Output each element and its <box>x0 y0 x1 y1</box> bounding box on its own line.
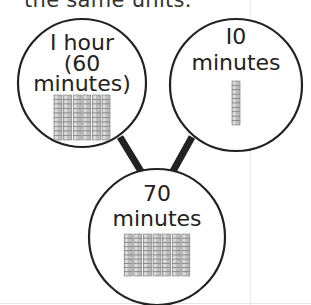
cube-highlight <box>154 268 157 271</box>
node-seventy-minutes: 70minutes <box>89 169 225 305</box>
cube-highlight <box>93 132 96 135</box>
cube-highlight <box>103 132 106 135</box>
cube-highlight <box>233 121 236 124</box>
cube-highlight <box>74 136 77 139</box>
cube-highlight <box>233 108 236 111</box>
cube-highlight <box>74 96 77 99</box>
ten-rod <box>54 95 62 140</box>
cube-highlight <box>135 235 138 238</box>
cube-highlight <box>55 118 58 121</box>
ten-rod <box>172 234 180 276</box>
cube-highlight <box>163 256 166 259</box>
cube-highlight <box>183 243 186 246</box>
node-label-line: minutes) <box>33 71 131 96</box>
cube-highlight <box>125 247 128 250</box>
cube-highlight <box>64 132 67 135</box>
cube-highlight <box>74 100 77 103</box>
cube-highlight <box>144 243 147 246</box>
connector-one-hour-to-seventy-minutes <box>120 137 142 173</box>
cube-highlight <box>93 109 96 112</box>
cube-highlight <box>154 235 157 238</box>
cube-highlight <box>64 127 67 130</box>
cube-highlight <box>183 256 186 259</box>
cube-highlight <box>74 132 77 135</box>
cube-highlight <box>64 123 67 126</box>
cube-highlight <box>125 264 128 267</box>
ten-rod <box>83 95 91 140</box>
cube-highlight <box>144 268 147 271</box>
cube-highlight <box>183 272 186 275</box>
ten-rod <box>73 95 81 140</box>
ten-rod <box>182 234 190 276</box>
cube-highlight <box>163 272 166 275</box>
cube-highlight <box>64 109 67 112</box>
cube-highlight <box>173 239 176 242</box>
cube-highlight <box>103 109 106 112</box>
cube-highlight <box>233 112 236 115</box>
cube-highlight <box>163 235 166 238</box>
cube-highlight <box>74 118 77 121</box>
cube-highlight <box>173 251 176 254</box>
cube-highlight <box>135 268 138 271</box>
cube-highlight <box>103 96 106 99</box>
cube-highlight <box>173 256 176 259</box>
cube-highlight <box>55 127 58 130</box>
cube-highlight <box>74 114 77 117</box>
cube-highlight <box>233 90 236 93</box>
cube-highlight <box>154 251 157 254</box>
cube-highlight <box>55 105 58 108</box>
ten-rod <box>92 95 100 140</box>
cube-highlight <box>163 268 166 271</box>
cube-highlight <box>183 251 186 254</box>
cube-highlight <box>93 118 96 121</box>
cube-highlight <box>135 239 138 242</box>
cube-highlight <box>163 251 166 254</box>
cube-highlight <box>84 100 87 103</box>
cube-highlight <box>144 251 147 254</box>
ten-rod <box>124 234 132 276</box>
cube-highlight <box>84 127 87 130</box>
cube-highlight <box>84 132 87 135</box>
cube-highlight <box>154 272 157 275</box>
cube-highlight <box>135 251 138 254</box>
cube-highlight <box>74 127 77 130</box>
cube-highlight <box>93 114 96 117</box>
cube-highlight <box>125 268 128 271</box>
cube-highlight <box>84 109 87 112</box>
cube-highlight <box>135 243 138 246</box>
cube-highlight <box>64 105 67 108</box>
cube-highlight <box>183 239 186 242</box>
node-label-line: minutes <box>112 206 201 231</box>
cube-highlight <box>154 243 157 246</box>
base-ten-rods <box>232 81 240 125</box>
cube-highlight <box>154 239 157 242</box>
cube-highlight <box>103 136 106 139</box>
node-ten-minutes: I0minutes <box>170 19 302 151</box>
cube-highlight <box>144 264 147 267</box>
cube-highlight <box>93 136 96 139</box>
cube-highlight <box>233 95 236 98</box>
node-label-line: I0 <box>226 24 247 49</box>
ten-rod <box>232 81 240 125</box>
cube-highlight <box>103 105 106 108</box>
cube-highlight <box>125 235 128 238</box>
cube-highlight <box>84 96 87 99</box>
cube-highlight <box>135 272 138 275</box>
cube-highlight <box>103 127 106 130</box>
ten-rod <box>102 95 110 140</box>
cube-highlight <box>125 239 128 242</box>
cube-highlight <box>154 256 157 259</box>
cube-highlight <box>173 268 176 271</box>
node-label-line: 70 <box>143 181 171 206</box>
cube-highlight <box>84 123 87 126</box>
cube-highlight <box>55 132 58 135</box>
cube-highlight <box>103 123 106 126</box>
cube-highlight <box>93 123 96 126</box>
cube-highlight <box>144 247 147 250</box>
cube-highlight <box>93 96 96 99</box>
cube-highlight <box>233 86 236 89</box>
ten-rod <box>64 95 72 140</box>
node-one-hour: I hour(60minutes) <box>18 19 146 147</box>
cube-highlight <box>163 264 166 267</box>
cube-highlight <box>84 118 87 121</box>
